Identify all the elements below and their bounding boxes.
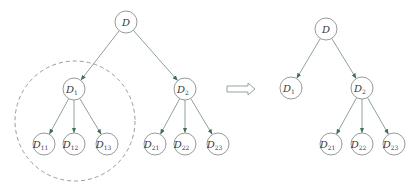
left-edge-D2-D23 [191,98,212,134]
right-node-D21: D21 [319,133,342,155]
left-node-D23: D23 [206,133,229,155]
tree-pruning-diagram: DD1D2D11D12D13D21D22D23 DD1D2D21D22D23 [0,0,417,188]
left-edge-D1-D11 [50,99,69,134]
left-node-D1: D1 [63,78,85,100]
left-edge-D-D1 [81,31,119,80]
left-node-D: D [115,11,137,33]
left-edge-D2-D21 [161,99,180,134]
transform-arrow-icon [227,83,255,95]
right-edge-D2-D21 [337,98,357,134]
right-edge-D2-D23 [367,98,388,134]
node-label: D [321,24,330,35]
node-label: D [121,17,130,28]
left-node-D12: D12 [62,133,85,155]
left-node-D22: D22 [173,133,196,155]
right-node-D: D [315,18,337,40]
left-edge-D-D2 [133,30,177,80]
left-node-D21: D21 [143,133,166,155]
right-node-D22: D22 [350,133,373,155]
right-node-D23: D23 [382,133,405,155]
right-tree-nodes: DD1D2D21D22D23 [280,18,405,155]
right-edge-D-D1 [297,38,321,78]
right-edge-D-D2 [332,38,356,78]
right-node-D2: D2 [351,77,373,99]
right-node-D1: D1 [280,77,302,99]
left-edge-D1-D13 [80,98,101,134]
left-tree-nodes: DD1D2D11D12D13D21D22D23 [32,11,229,155]
left-node-D13: D13 [95,133,118,155]
right-tree-edges [297,38,388,134]
left-node-D11: D11 [32,133,55,155]
left-node-D2: D2 [174,78,196,100]
